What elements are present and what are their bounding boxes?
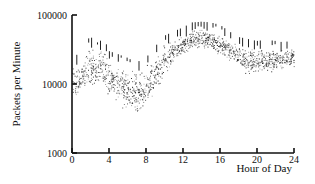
y-ticks: 100010000100000	[37, 10, 77, 159]
chart: 100010000100000 04812162024 Packets per …	[0, 0, 315, 184]
x-tick-label: 12	[178, 154, 188, 165]
data-points	[72, 30, 295, 112]
x-tick-label: 16	[215, 154, 225, 165]
x-axis-label: Hour of Day	[236, 162, 292, 174]
y-tick-label: 100000	[37, 10, 67, 21]
y-tick-label: 1000	[47, 148, 67, 159]
y-tick-label: 10000	[42, 79, 67, 90]
peak-bars	[77, 22, 287, 71]
x-tick-label: 8	[144, 154, 149, 165]
y-axis-label: Packets per Minute	[10, 41, 22, 126]
x-tick-label: 4	[107, 154, 112, 165]
x-tick-label: 0	[70, 154, 75, 165]
